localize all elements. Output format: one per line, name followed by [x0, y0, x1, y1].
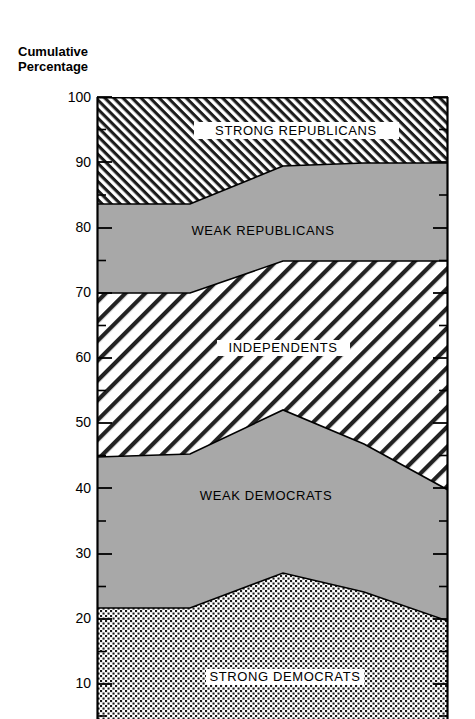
band-label-weak-republicans-group: WEAK REPUBLICANS: [191, 223, 334, 238]
band-label-strong-republicans-group: STRONG REPUBLICANS: [194, 122, 399, 139]
plot-area: STRONG REPUBLICANS WEAK REPUBLICANS INDE…: [0, 0, 475, 719]
band-label-independents-group: INDEPENDENTS: [217, 340, 350, 356]
cumulative-percentage-area-chart: Cumulative Percentage 100 90 80 70 60 50…: [0, 0, 475, 719]
band-label-weak-republicans: WEAK REPUBLICANS: [191, 223, 334, 238]
band-label-strong-republicans: STRONG REPUBLICANS: [215, 123, 377, 138]
band-label-weak-democrats: WEAK DEMOCRATS: [200, 488, 332, 503]
band-label-strong-democrats: STRONG DEMOCRATS: [210, 669, 361, 684]
band-label-independents: INDEPENDENTS: [228, 340, 337, 355]
band-label-strong-democrats-group: STRONG DEMOCRATS: [206, 669, 364, 685]
band-label-weak-democrats-group: WEAK DEMOCRATS: [200, 488, 332, 503]
